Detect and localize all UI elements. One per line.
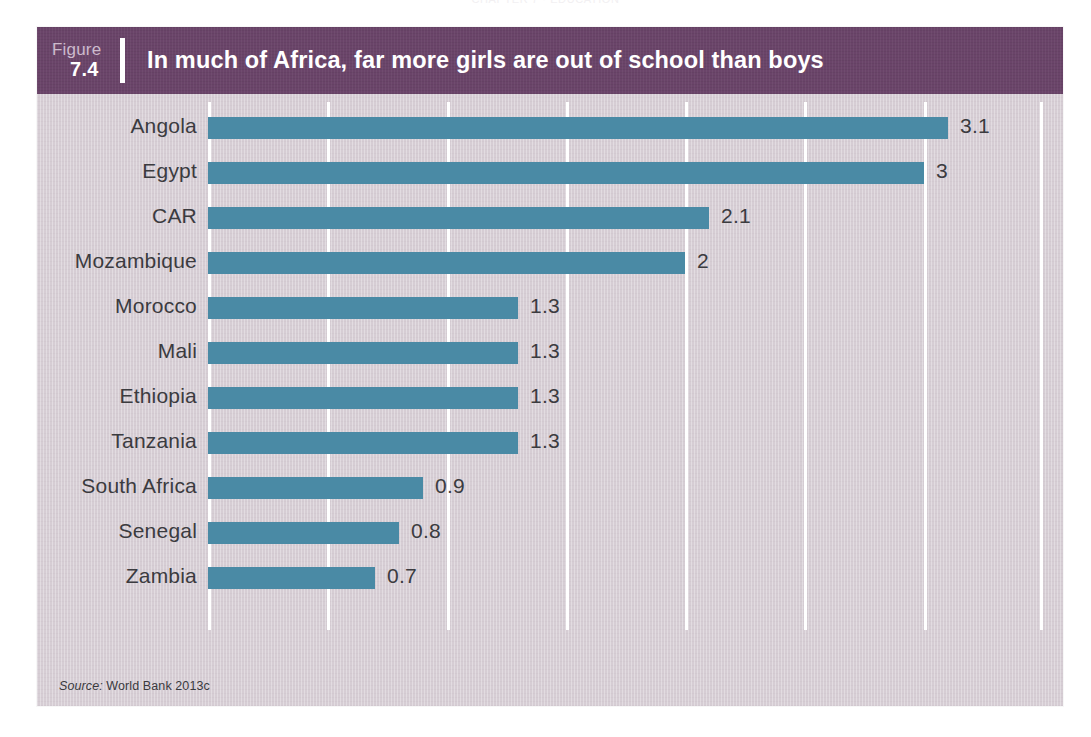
bar-row[interactable]: 2.1 — [208, 196, 1043, 241]
bar[interactable] — [208, 252, 685, 274]
category-label: Senegal — [37, 519, 197, 543]
bar-value-label: 3 — [936, 159, 948, 183]
figure-word-label: Figure — [52, 41, 120, 59]
bar-value-label: 0.8 — [411, 519, 441, 543]
bar[interactable] — [208, 432, 518, 454]
bar-value-label: 1.3 — [530, 429, 560, 453]
bar[interactable] — [208, 342, 518, 364]
figure-panel: Figure 7.4 In much of Africa, far more g… — [37, 27, 1063, 706]
bar-value-label: 0.9 — [435, 474, 465, 498]
figure-number-block: Figure 7.4 — [37, 41, 120, 80]
bar-value-label: 1.3 — [530, 294, 560, 318]
bar-row[interactable]: 2 — [208, 241, 1043, 286]
figure-title: In much of Africa, far more girls are ou… — [147, 47, 824, 74]
category-axis: AngolaEgyptCARMozambiqueMoroccoMaliEthio… — [37, 102, 197, 630]
category-label: Ethiopia — [37, 384, 197, 408]
header-divider — [120, 38, 125, 83]
figure-header-bar: Figure 7.4 In much of Africa, far more g… — [37, 27, 1063, 94]
bar-value-label: 2.1 — [721, 204, 751, 228]
source-label: Source: — [59, 679, 103, 693]
category-label: Morocco — [37, 294, 197, 318]
bar-row[interactable]: 1.3 — [208, 286, 1043, 331]
bar-row[interactable]: 3.1 — [208, 106, 1043, 151]
bar-row[interactable]: 1.3 — [208, 421, 1043, 466]
page-running-head: CHAPTER 7 · EDUCATION — [0, 0, 1091, 4]
bar-value-label: 3.1 — [960, 114, 990, 138]
category-label: Angola — [37, 114, 197, 138]
bar-value-label: 1.3 — [530, 384, 560, 408]
bar-value-label: 1.3 — [530, 339, 560, 363]
category-label: Zambia — [37, 564, 197, 588]
bar-row[interactable]: 1.3 — [208, 331, 1043, 376]
category-label: Tanzania — [37, 429, 197, 453]
bar[interactable] — [208, 207, 709, 229]
source-text: World Bank 2013c — [103, 679, 210, 693]
bar[interactable] — [208, 117, 948, 139]
bar[interactable] — [208, 387, 518, 409]
bar[interactable] — [208, 522, 399, 544]
chart-body: AngolaEgyptCARMozambiqueMoroccoMaliEthio… — [37, 94, 1063, 706]
bar[interactable] — [208, 567, 375, 589]
bar-value-label: 2 — [697, 249, 709, 273]
bar-row[interactable]: 3 — [208, 151, 1043, 196]
source-note: Source: World Bank 2013c — [59, 679, 210, 693]
bar-row[interactable]: 0.7 — [208, 556, 1043, 601]
bar-row[interactable]: 0.9 — [208, 466, 1043, 511]
bar-value-label: 0.7 — [387, 564, 417, 588]
plot-area: 3.132.121.31.31.31.30.90.80.7 — [208, 102, 1043, 630]
category-label: Egypt — [37, 159, 197, 183]
category-label: CAR — [37, 204, 197, 228]
bar[interactable] — [208, 162, 924, 184]
figure-number-label: 7.4 — [52, 59, 120, 80]
bar-row[interactable]: 0.8 — [208, 511, 1043, 556]
category-label: Mozambique — [37, 249, 197, 273]
bar[interactable] — [208, 297, 518, 319]
category-label: South Africa — [37, 474, 197, 498]
category-label: Mali — [37, 339, 197, 363]
bar[interactable] — [208, 477, 423, 499]
bar-row[interactable]: 1.3 — [208, 376, 1043, 421]
